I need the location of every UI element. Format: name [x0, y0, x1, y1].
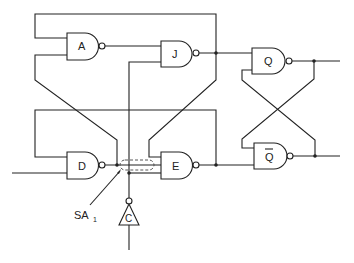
inversion-bubble-j [193, 50, 199, 56]
fault-arrowhead [117, 169, 121, 174]
gate-label-d: D [78, 160, 86, 172]
gate-label-q: Q [264, 55, 273, 67]
inversion-bubble-q [286, 58, 292, 64]
wire-j-to-e [149, 53, 216, 157]
inversion-bubble-a [99, 43, 105, 49]
gate-label-c: C [125, 213, 132, 224]
gate-label-j: J [172, 48, 178, 60]
inversion-bubble-d [99, 162, 105, 168]
junction-clock [127, 171, 131, 175]
wire-qbar-cross [242, 70, 315, 156]
gate-label-e: E [172, 160, 179, 172]
fault-label: SA [74, 209, 89, 221]
junction-qbar-output [313, 154, 317, 158]
inversion-bubble-qbar [287, 153, 293, 159]
inversion-bubble-e [193, 162, 199, 168]
junction-j-output [214, 51, 218, 55]
junction-d-output [115, 163, 119, 167]
gate-label-a: A [78, 40, 86, 52]
gate-label-qbar: Q [265, 151, 274, 163]
circuit-diagram: A J Q D E Q C SA 1 [0, 0, 354, 263]
fault-arrow [90, 171, 120, 205]
wire-j-clock-input [129, 62, 161, 198]
circuit-svg: A J Q D E Q C SA 1 [0, 0, 354, 263]
junction-e-output [214, 163, 218, 167]
fault-label-subscript: 1 [93, 216, 97, 223]
junction-q-output [312, 59, 316, 63]
